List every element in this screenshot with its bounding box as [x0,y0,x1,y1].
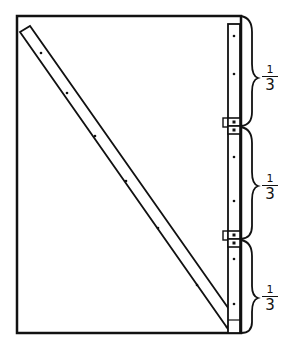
brace-icon [241,127,258,239]
fraction-label-middle: 1 3 [262,173,278,203]
fraction-denominator: 3 [262,77,278,94]
fraction-label-bottom: 1 3 [262,284,278,314]
diagonal-brace [20,26,238,329]
diagram-canvas [0,0,292,364]
vertical-strip [228,24,240,333]
hinge-icon [223,231,240,247]
hinge-icon [223,118,240,134]
brace-icon [241,240,258,333]
fraction-denominator: 3 [262,186,278,203]
fraction-denominator: 3 [262,297,278,314]
fraction-label-top: 1 3 [262,64,278,94]
brace-icon [241,16,258,126]
